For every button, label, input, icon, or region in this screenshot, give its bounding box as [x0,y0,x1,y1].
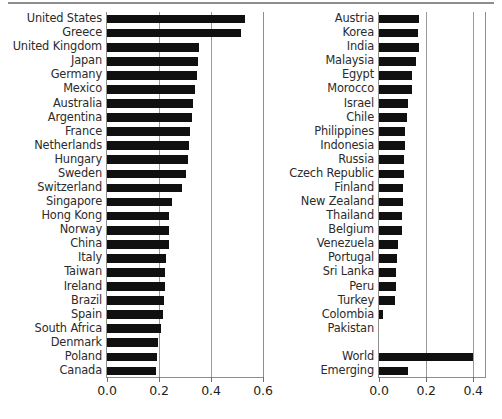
bar [107,268,165,277]
plot-area-left: 0.00.20.40.6 [106,12,264,378]
bar [107,198,172,207]
category-label: China [70,238,102,249]
category-label: Australia [53,98,102,109]
bar [107,57,198,66]
bar [379,310,383,319]
axis-tick-label: 0.2 [149,383,168,398]
category-label: Morocco [327,83,374,94]
category-label: Canada [60,365,102,376]
bar [107,367,156,376]
axis-tick [473,377,474,382]
bar [107,296,164,305]
category-label: World [342,351,374,362]
plot-area-right: 0.00.20.4 [378,12,486,378]
category-label: Ireland [64,281,102,292]
category-label: Czech Republic [289,168,374,179]
category-label: Portugal [328,252,374,263]
bar [107,310,163,319]
axis-tick [263,377,264,382]
bar [379,85,412,94]
bar [379,254,397,263]
axis-tick [107,377,108,382]
category-label: Indonesia [320,140,374,151]
category-label: Emerging [321,365,374,376]
bar [379,198,403,207]
bar [379,99,408,108]
bar [379,240,398,249]
bar [107,212,169,221]
category-label: Denmark [51,337,102,348]
figure-root: 0.00.20.40.6 United StatesGreeceUnited K… [0,0,502,419]
gridline [159,12,160,377]
bar [107,141,189,150]
category-label: Turkey [338,295,374,306]
axis-tick-label: 0.4 [464,383,483,398]
category-label: Sri Lanka [323,266,374,277]
bar [379,226,402,235]
category-label: Austria [335,13,374,24]
bar [107,71,197,80]
category-label: United States [27,13,102,24]
category-label: Switzerland [37,182,102,193]
bar [107,240,169,249]
category-label: United Kingdom [13,41,102,52]
category-label: Poland [65,351,102,362]
category-label: Korea [342,27,374,38]
bar [107,29,241,38]
bar [107,324,161,333]
bar [379,170,404,179]
category-label: Italy [78,252,102,263]
axis-tick [379,377,380,382]
axis-tick-label: 0.0 [97,383,116,398]
category-label: Norway [60,224,102,235]
bar [379,184,403,193]
gridline [426,12,427,377]
bar [107,338,158,347]
bar [379,282,396,291]
category-label: Japan [71,55,102,66]
category-label: Mexico [63,83,102,94]
bar [379,296,395,305]
category-label: Hungary [54,154,102,165]
category-label: Peru [349,281,374,292]
bar [379,71,412,80]
category-label: Malaysia [325,55,374,66]
bar [107,43,199,52]
bar [107,99,193,108]
gridline [211,12,212,377]
bar [107,353,157,362]
category-label: Israel [344,98,374,109]
bar [379,141,405,150]
bar [107,170,186,179]
category-label: Netherlands [34,140,102,151]
axis-tick [211,377,212,382]
category-label: Spain [71,309,102,320]
bar [107,127,190,136]
chart-panel-left: 0.00.20.40.6 United StatesGreeceUnited K… [0,0,268,419]
category-label: Thailand [326,210,374,221]
category-label: Chile [346,112,374,123]
category-label: Russia [338,154,374,165]
category-label: Taiwan [64,266,102,277]
bar [379,57,416,66]
category-label: Finland [334,182,374,193]
bar [379,43,419,52]
bar [379,15,419,24]
bar [107,85,195,94]
bar [379,268,396,277]
category-label: Colombia [322,309,374,320]
category-label: Belgium [328,224,374,235]
bar [379,367,408,376]
bar [379,155,404,164]
axis-tick [159,377,160,382]
gridline [473,12,474,377]
bar [107,254,166,263]
category-label: Pakistan [328,323,375,334]
bar [107,184,182,193]
category-label: Germany [51,69,102,80]
bar [107,226,169,235]
category-label: New Zealand [301,196,374,207]
figure-caption [0,409,502,419]
category-label: Hong Kong [41,210,102,221]
axis-tick-label: 0.0 [369,383,388,398]
